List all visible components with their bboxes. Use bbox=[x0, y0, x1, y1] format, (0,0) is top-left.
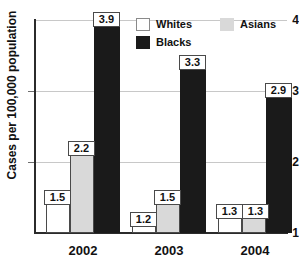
bar-chart: 4 3 2 1 Cases per 100,000 population 1.5… bbox=[0, 0, 299, 267]
bar-2002-blacks bbox=[94, 27, 120, 233]
legend-swatch-whites-icon bbox=[136, 18, 150, 31]
legend-swatch-blacks-icon bbox=[136, 36, 150, 49]
bar-2003-blacks bbox=[180, 70, 206, 233]
chart-title-cropped bbox=[0, 0, 299, 7]
value-label-2002-whites: 1.5 bbox=[44, 190, 71, 205]
legend: Whites Asians Blacks bbox=[136, 16, 296, 52]
value-label-2004-whites: 1.3 bbox=[216, 204, 243, 219]
legend-label-whites: Whites bbox=[156, 17, 192, 32]
bar-2004-blacks bbox=[266, 98, 292, 233]
legend-row-2: Blacks bbox=[136, 34, 296, 52]
value-label-2002-blacks: 3.9 bbox=[93, 12, 120, 27]
legend-label-asians: Asians bbox=[240, 17, 276, 32]
legend-row-1: Whites Asians bbox=[136, 16, 296, 34]
legend-label-blacks: Blacks bbox=[156, 35, 191, 50]
value-label-2002-asians: 2.2 bbox=[68, 141, 95, 156]
y-axis-title: Cases per 100,000 population bbox=[5, 0, 19, 193]
value-label-2004-asians: 1.3 bbox=[242, 204, 269, 219]
value-label-2004-blacks: 2.9 bbox=[265, 83, 292, 98]
value-label-2003-blacks: 3.3 bbox=[179, 55, 206, 70]
value-label-2003-asians: 1.5 bbox=[154, 190, 181, 205]
x-axis-label-2003: 2003 bbox=[124, 243, 214, 258]
x-axis-label-2004: 2004 bbox=[210, 243, 299, 258]
x-axis-label-2002: 2002 bbox=[38, 243, 128, 258]
value-label-2003-whites: 1.2 bbox=[130, 212, 157, 227]
bar-2002-asians bbox=[70, 148, 94, 233]
legend-swatch-asians-icon bbox=[220, 18, 234, 31]
